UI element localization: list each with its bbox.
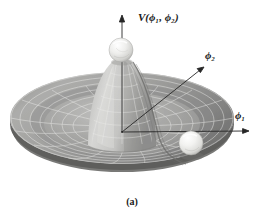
axis-label-phi2: ϕ₂ bbox=[205, 50, 215, 61]
axis-label-phi2-text: ϕ₂ bbox=[205, 49, 215, 61]
axis-label-phi1-text: ϕ₁ bbox=[235, 109, 245, 121]
axis-label-phi1: ϕ₁ bbox=[235, 110, 245, 121]
axis-label-v: V(ϕ₁, ϕ₂) bbox=[138, 12, 179, 23]
mexican-hat-figure: V(ϕ₁, ϕ₂) ϕ₂ ϕ₁ (a) bbox=[0, 0, 264, 217]
ball-in-trough bbox=[179, 131, 204, 160]
figure-caption: (a) bbox=[0, 196, 264, 207]
mexican-hat-surface bbox=[0, 0, 264, 217]
ball-at-peak bbox=[109, 38, 133, 66]
axis-label-v-text: V(ϕ₁, ϕ₂) bbox=[138, 11, 179, 23]
